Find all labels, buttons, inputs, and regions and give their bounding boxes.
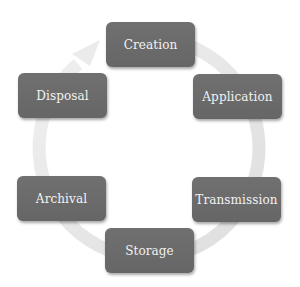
stage-application: Application xyxy=(193,74,282,119)
stage-label: Application xyxy=(202,90,272,104)
stage-storage: Storage xyxy=(105,228,194,273)
stage-disposal: Disposal xyxy=(18,73,107,118)
stage-label: Disposal xyxy=(36,89,88,103)
stage-archival: Archival xyxy=(17,176,106,221)
stage-label: Transmission xyxy=(195,193,277,207)
stage-label: Creation xyxy=(124,38,178,52)
stage-label: Storage xyxy=(125,244,174,258)
stage-creation: Creation xyxy=(106,22,195,67)
stage-transmission: Transmission xyxy=(192,177,281,222)
stage-label: Archival xyxy=(36,192,87,206)
